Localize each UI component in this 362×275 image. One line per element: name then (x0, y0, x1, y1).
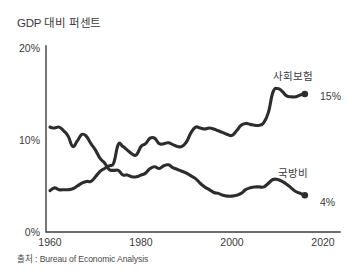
series-label-defense: 국방비 (278, 167, 307, 179)
y-tick-label: 20% (19, 42, 40, 54)
series-line-defense (50, 127, 305, 196)
chart-container: GDP 대비 퍼센트 0% 10% 20% 1960 1980 2000 202… (0, 0, 362, 275)
source-note: 출처 : Bureau of Economic Analysis (17, 252, 148, 264)
x-tick-label: 1980 (129, 236, 153, 248)
x-tick-label: 2000 (220, 236, 244, 248)
x-tick-label: 2020 (311, 236, 335, 248)
series-endpoint-marker (302, 192, 309, 199)
series-label-social-insurance: 사회보험 (273, 70, 312, 82)
series-value-social-insurance: 15% (320, 90, 341, 102)
series-value-defense: 4% (320, 196, 335, 208)
y-axis-tick-labels: 0% 10% 20% (19, 42, 40, 238)
y-tick-label: 10% (19, 134, 40, 146)
series-endpoint-marker (302, 91, 309, 98)
line-chart-plot: 0% 10% 20% 1960 1980 2000 2020 사회보험 15% … (0, 0, 362, 275)
x-axis-tick-labels: 1960 1980 2000 2020 (38, 236, 335, 248)
x-tick-label: 1960 (38, 236, 62, 248)
